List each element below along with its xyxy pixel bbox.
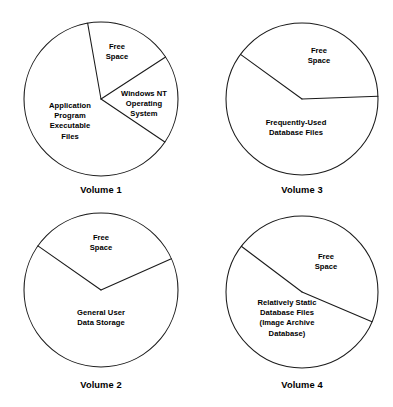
- pie-volume-1: [24, 22, 178, 176]
- pie-divider-volume-1-2: [101, 99, 165, 142]
- caption-volume-1: Volume 1: [80, 185, 121, 195]
- caption-volume-4: Volume 4: [281, 380, 322, 390]
- pie-divider-volume-1-0: [88, 23, 101, 99]
- caption-volume-2: Volume 2: [80, 380, 121, 390]
- pie-chart-svg: [0, 0, 393, 407]
- pie-chart-figure: FreeSpaceWindows NTOperatingSystemApplic…: [0, 0, 393, 407]
- pie-divider-volume-2-0: [38, 246, 101, 290]
- pie-volume-2: [24, 213, 178, 367]
- pie-volume-4: [226, 216, 378, 368]
- pie-divider-volume-4-1: [302, 292, 372, 322]
- pie-divider-volume-4-0: [241, 246, 302, 292]
- pie-divider-volume-1-1: [101, 57, 166, 99]
- pie-divider-volume-3-1: [302, 96, 378, 99]
- pie-divider-volume-3-0: [241, 54, 302, 99]
- caption-volume-3: Volume 3: [281, 185, 322, 195]
- pie-volume-3: [226, 23, 378, 175]
- pie-divider-volume-2-1: [101, 259, 171, 290]
